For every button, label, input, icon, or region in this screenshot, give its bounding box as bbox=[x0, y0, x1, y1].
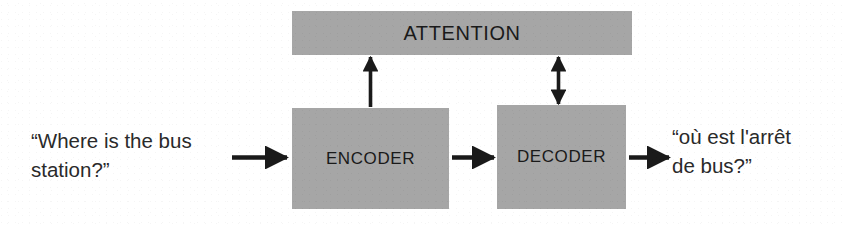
decoder-label: DECODER bbox=[517, 147, 606, 167]
diagram-canvas: ATTENTION ENCODER DECODER “Where is the … bbox=[0, 0, 843, 225]
output-sentence-text: “où est l'arrêt de bus?” bbox=[672, 122, 842, 180]
decoder-block: DECODER bbox=[497, 105, 626, 209]
encoder-block: ENCODER bbox=[292, 108, 449, 209]
input-sentence-text: “Where is the bus station?” bbox=[31, 126, 231, 184]
attention-block: ATTENTION bbox=[292, 11, 632, 55]
encoder-label: ENCODER bbox=[326, 149, 415, 169]
attention-label: ATTENTION bbox=[403, 22, 520, 45]
